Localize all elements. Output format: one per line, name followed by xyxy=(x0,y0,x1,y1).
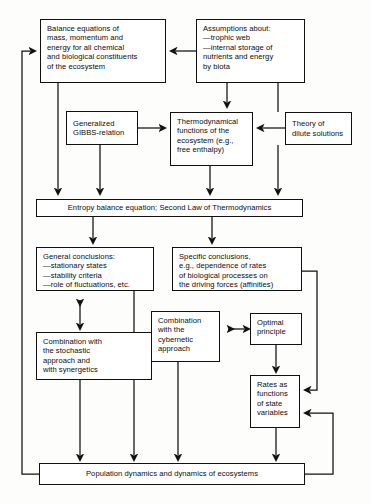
node-optimal-principle: Optimal principle xyxy=(250,313,302,345)
flowchart-diagram: Balance equations of mass, momentum and … xyxy=(0,0,371,504)
node-dilute-solutions: Theory of dilute solutions xyxy=(285,112,352,145)
node-entropy-balance: Entropy balance equation; Second Law of … xyxy=(36,199,303,217)
node-thermodynamical-functions: Thermodynamical functions of the ecosyst… xyxy=(170,112,253,166)
node-rates-state-variables: Rates as functions of state variables xyxy=(250,375,300,428)
node-balance-equations: Balance equations of mass, momentum and … xyxy=(40,19,166,83)
node-stochastic-combination: Combination with the stochastic approach… xyxy=(36,332,152,380)
node-gibbs-relation: Generalized GIBBS-relation xyxy=(66,111,138,145)
node-general-conclusions: General conclusions: —stationary states … xyxy=(36,247,154,291)
node-specific-conclusions: Specific conclusions, e.g., dependence o… xyxy=(172,247,302,291)
node-cybernetic-combination: Combination with the cybernetic approach xyxy=(151,311,220,362)
node-population-dynamics: Population dynamics and dynamics of ecos… xyxy=(39,463,305,485)
edge-specific-to-rates xyxy=(302,271,317,390)
node-assumptions: Assumptions about: —trophic web —interna… xyxy=(196,19,305,83)
edge-population-to-rates-feedback xyxy=(305,413,333,474)
